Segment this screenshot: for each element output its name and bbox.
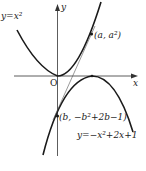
tangent-line — [53, 26, 95, 120]
point-b-label: (b, −b²+2b−1) — [59, 112, 127, 122]
point-a-marker — [90, 32, 93, 35]
graph: y x O y=x² (a, a²) (b, −b²+2b−1) y=−x²+2… — [0, 0, 146, 171]
curve-upper-label: y=x² — [0, 11, 23, 21]
point-a-label: (a, a²) — [94, 30, 122, 40]
x-axis-label: x — [133, 78, 138, 88]
curve-lower-label: y=−x²+2x+1 — [76, 130, 137, 140]
y-axis-arrow-icon — [55, 4, 60, 11]
vertex-lower-marker — [91, 75, 94, 78]
curve-upper-parabola — [17, 2, 101, 76]
y-axis-label: y — [60, 2, 67, 12]
origin-label: O — [50, 78, 57, 88]
